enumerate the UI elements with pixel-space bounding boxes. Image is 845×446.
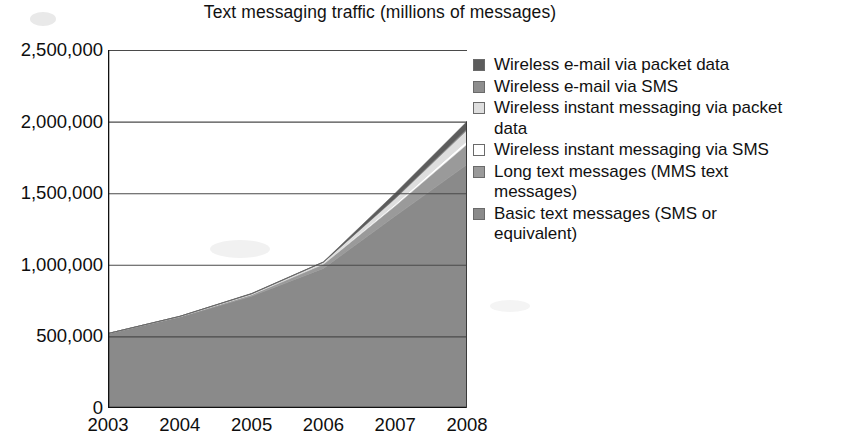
y-axis-tick-label: 1,500,000 [3,182,103,204]
x-axis-tick-label: 2007 [365,414,425,436]
legend-item[interactable]: Wireless e-mail via SMS [473,77,841,98]
y-axis-labels: 2,500,000 2,000,000 1,500,000 1,000,000 … [0,0,103,446]
legend-item-label: Wireless instant messaging via packet da… [494,98,784,139]
x-axis-tick-label: 2003 [78,414,138,436]
chart-container: Text messaging traffic (millions of mess… [0,0,845,446]
legend-item-label: Wireless e-mail via packet data [494,55,729,76]
legend-swatch-icon [473,59,485,71]
x-axis-labels: 2003 2004 2005 2006 2007 2008 [108,414,467,444]
legend-swatch-icon [473,144,485,156]
legend-item-label: Wireless instant messaging via SMS [494,140,769,161]
legend-item[interactable]: Wireless instant messaging via SMS [473,140,841,161]
chart-legend: Wireless e-mail via packet data Wireless… [473,55,841,246]
y-axis-tick-label: 500,000 [3,325,103,347]
x-axis-tick-label: 2006 [293,414,353,436]
x-axis-tick-label: 2005 [222,414,282,436]
legend-item[interactable]: Long text messages (MMS text messages) [473,162,841,203]
legend-item-label: Wireless e-mail via SMS [494,77,678,98]
legend-swatch-icon [473,102,485,114]
chart-title: Text messaging traffic (millions of mess… [200,2,560,23]
legend-item-label: Basic text messages (SMS or equivalent) [494,204,724,245]
plot-area [108,50,467,408]
scan-artifact [490,300,530,312]
y-axis-tick-label: 1,000,000 [3,254,103,276]
legend-item[interactable]: Wireless instant messaging via packet da… [473,98,841,139]
y-axis-tick-label: 2,500,000 [3,39,103,61]
legend-swatch-icon [473,81,485,93]
legend-swatch-icon [473,166,485,178]
x-axis-tick-label: 2004 [150,414,210,436]
area-chart-svg [108,50,467,408]
legend-item[interactable]: Basic text messages (SMS or equivalent) [473,204,841,245]
legend-swatch-icon [473,208,485,220]
legend-item[interactable]: Wireless e-mail via packet data [473,55,841,76]
legend-item-label: Long text messages (MMS text messages) [494,162,744,203]
y-axis-tick-label: 2,000,000 [3,111,103,133]
x-axis-tick-label: 2008 [437,414,497,436]
